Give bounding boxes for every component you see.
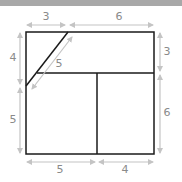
dim-arrow-diagonal — [32, 37, 72, 89]
label-top-left: 3 — [43, 10, 50, 23]
label-diagonal: 5 — [56, 57, 63, 70]
label-bottom-right: 4 — [122, 163, 129, 176]
label-right-upper: 3 — [164, 45, 171, 58]
dimension-arrows — [20, 25, 160, 162]
shape — [26, 32, 154, 154]
label-left-upper: 4 — [10, 51, 17, 64]
geometry-diagram: 3 6 4 5 3 6 5 4 5 — [0, 0, 182, 182]
label-left-lower: 5 — [10, 113, 17, 126]
label-top-right: 6 — [116, 10, 123, 23]
label-right-lower: 6 — [164, 106, 171, 119]
label-bottom-left: 5 — [57, 163, 64, 176]
outer-square — [26, 32, 154, 154]
